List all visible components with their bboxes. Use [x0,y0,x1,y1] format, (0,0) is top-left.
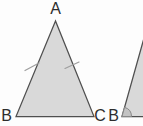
vertex-label-b: B [1,107,12,124]
vertex-label-c: C [94,107,106,124]
vertex-label-a: A [50,0,61,17]
geometry-diagram: A B C B [0,0,143,126]
vertex-label-b2: B [108,107,119,124]
diagram-canvas: A B C B [0,0,143,126]
triangle-partial [122,31,143,117]
